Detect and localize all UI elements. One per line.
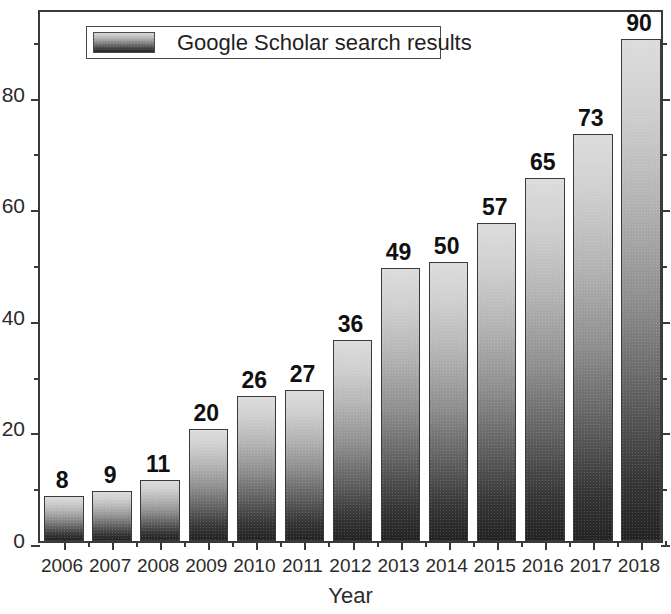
- x-axis-tick-minor: [280, 541, 282, 547]
- bar: [381, 268, 420, 541]
- bar-value-label: 11: [146, 451, 170, 478]
- bar-value-label: 49: [386, 239, 412, 266]
- x-axis-tick-major: [593, 541, 595, 550]
- y-axis-tick-major: [31, 210, 40, 212]
- legend-label: Google Scholar search results: [177, 30, 472, 56]
- x-axis-tick-label: 2017: [570, 555, 612, 577]
- y-axis-tick-major: [31, 545, 40, 547]
- bar: [140, 480, 179, 541]
- y-axis-tick-major-right: [661, 433, 670, 435]
- bar: [477, 223, 516, 541]
- bar: [92, 491, 131, 541]
- bar: [429, 262, 468, 541]
- x-axis-tick-major: [208, 541, 210, 550]
- x-axis-tick-minor: [232, 541, 234, 547]
- x-axis-tick-minor: [328, 541, 330, 547]
- x-axis-tick-minor: [88, 541, 90, 547]
- x-axis-tick-major: [401, 541, 403, 550]
- x-axis-title: Year: [38, 583, 663, 609]
- bar: [237, 396, 276, 541]
- y-axis-tick-label: 80: [0, 83, 25, 107]
- x-axis-tick-label: 2009: [185, 555, 227, 577]
- y-axis-tick-minor-right: [661, 378, 667, 380]
- y-axis-tick-major: [31, 99, 40, 101]
- x-axis-tick-label: 2011: [282, 555, 323, 577]
- x-axis-tick-label: 2016: [522, 555, 564, 577]
- bar-value-label: 73: [578, 105, 604, 132]
- bar-value-label: 65: [530, 149, 556, 176]
- x-axis-tick-label: 2010: [233, 555, 275, 577]
- bar-value-label: 26: [242, 367, 268, 394]
- x-axis-tick-minor: [665, 541, 667, 547]
- y-axis-tick-major-right: [661, 322, 670, 324]
- x-axis-tick-minor: [569, 541, 571, 547]
- y-axis-tick-major: [31, 322, 40, 324]
- y-axis-tick-major-right: [661, 545, 670, 547]
- y-axis-tick-major: [31, 433, 40, 435]
- x-axis-tick-major: [112, 541, 114, 550]
- y-axis-tick-label: 20: [0, 417, 25, 441]
- x-axis-tick-label: 2014: [426, 555, 468, 577]
- x-axis-tick-minor: [136, 541, 138, 547]
- y-axis-tick-major-right: [661, 210, 670, 212]
- bar-series: [40, 12, 661, 541]
- bar: [189, 429, 228, 541]
- x-axis-tick-label: 2007: [89, 555, 131, 577]
- x-axis-tick-major: [64, 541, 66, 550]
- x-axis-tick-major: [497, 541, 499, 550]
- x-axis-tick-label: 2015: [474, 555, 516, 577]
- bar-value-label: 20: [193, 400, 219, 427]
- y-axis-tick-label: 60: [0, 194, 25, 218]
- bar-value-label: 36: [338, 311, 364, 338]
- bar: [621, 39, 660, 541]
- bar-value-label: 8: [56, 467, 69, 494]
- bar: [333, 340, 372, 541]
- x-axis-tick-minor: [377, 541, 379, 547]
- x-axis-tick-major: [160, 541, 162, 550]
- x-axis-tick-minor: [184, 541, 186, 547]
- x-axis-tick-label: 2006: [41, 555, 83, 577]
- x-axis-tick-major: [353, 541, 355, 550]
- y-axis-tick-label: 40: [0, 306, 25, 330]
- y-axis-tick-minor-right: [661, 266, 667, 268]
- x-axis-tick-label: 2012: [329, 555, 371, 577]
- y-axis-tick-label: 0: [0, 529, 25, 553]
- x-axis-tick-minor: [617, 541, 619, 547]
- x-axis-tick-major: [545, 541, 547, 550]
- legend-swatch-icon: [93, 32, 155, 53]
- bar-value-label: 57: [482, 194, 508, 221]
- y-axis-tick-minor-right: [661, 43, 667, 45]
- bar: [525, 178, 564, 541]
- x-axis-tick-label: 2008: [137, 555, 179, 577]
- bar-value-label: 90: [626, 10, 652, 37]
- plot-area: Google Scholar search results: [38, 10, 663, 543]
- bar: [44, 496, 83, 541]
- chart-legend: Google Scholar search results: [86, 26, 441, 59]
- bar: [285, 390, 324, 541]
- y-axis-tick-minor-right: [661, 154, 667, 156]
- x-axis-tick-major: [304, 541, 306, 550]
- x-axis-tick-label: 2013: [377, 555, 419, 577]
- x-axis-tick-minor: [473, 541, 475, 547]
- y-axis-tick-minor-right: [661, 489, 667, 491]
- x-axis-tick-major: [256, 541, 258, 550]
- bar-value-label: 9: [104, 462, 117, 489]
- x-axis-tick-minor: [425, 541, 427, 547]
- bar: [573, 134, 612, 541]
- x-axis-tick-label: 2018: [618, 555, 660, 577]
- x-axis-tick-major: [641, 541, 643, 550]
- x-axis-tick-major: [449, 541, 451, 550]
- bar-value-label: 27: [290, 361, 316, 388]
- chart-figure: Google Scholar search results 020406080 …: [0, 0, 671, 614]
- y-axis-tick-major-right: [661, 99, 670, 101]
- x-axis-tick-minor: [521, 541, 523, 547]
- bar-value-label: 50: [434, 233, 460, 260]
